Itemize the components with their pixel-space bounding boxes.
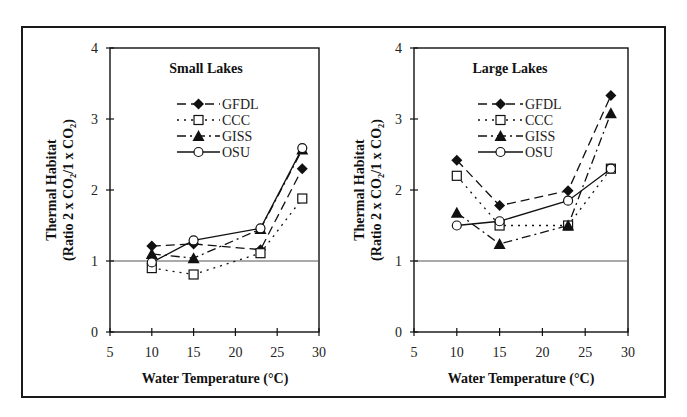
series-line-gfdl: [152, 169, 302, 250]
x-axis-title: Water Temperature (°C): [448, 371, 595, 387]
triangle-marker: [451, 207, 463, 218]
circle-marker: [189, 236, 198, 245]
y-tick-label: 2: [395, 183, 402, 198]
y-tick-label: 2: [91, 183, 98, 198]
circle-marker: [564, 196, 573, 205]
x-tick-label: 15: [493, 345, 507, 360]
series-line-osu: [457, 169, 611, 226]
y-tick-label: 0: [91, 325, 98, 340]
circle-marker: [495, 217, 504, 226]
legend-label: OSU: [525, 145, 553, 160]
x-tick-label: 25: [578, 345, 592, 360]
triangle-marker: [146, 248, 158, 259]
legend-label: OSU: [222, 145, 250, 160]
x-tick-label: 20: [228, 345, 242, 360]
series-markers-osu: [452, 164, 615, 230]
diamond-marker: [605, 90, 616, 101]
svg-text:(Ratio 2 x CO₂/1 x CO₂): (Ratio 2 x CO₂/1 x CO₂): [369, 119, 385, 261]
y-tick-label: 1: [395, 254, 402, 269]
plot-border: [414, 48, 628, 332]
series-line-ccc: [152, 199, 302, 275]
diamond-marker: [297, 163, 308, 174]
triangle-marker: [605, 107, 617, 118]
legend-label: CCC: [525, 113, 553, 128]
svg-text:Thermal Habitat: Thermal Habitat: [352, 139, 367, 241]
legend-label: GFDL: [222, 97, 259, 112]
circle-marker: [452, 221, 461, 230]
x-tick-label: 10: [450, 345, 464, 360]
y-axis-title: Thermal Habitat (Ratio 2 x CO₂/1 x CO₂): [44, 119, 77, 261]
y-tick-label: 3: [91, 112, 98, 127]
plot-border: [110, 48, 319, 332]
circle-marker: [298, 144, 307, 153]
circle-marker: [147, 258, 156, 267]
square-marker: [194, 116, 203, 125]
x-tick-label: 5: [411, 345, 418, 360]
circle-marker: [194, 148, 203, 157]
plot-area: 0123451015202530: [91, 41, 326, 360]
series-line-giss: [152, 150, 302, 259]
legend-item-ccc: CCC: [177, 113, 250, 128]
legend: GFDLCCCGISSOSU: [478, 97, 562, 160]
small-lakes-chart: Small Lakes Thermal Habitat (Ratio 2 x C…: [44, 41, 326, 387]
square-marker: [189, 270, 198, 279]
svg-text:(Ratio 2 x CO₂/1 x CO₂): (Ratio 2 x CO₂/1 x CO₂): [61, 119, 77, 261]
figure-canvas: Small Lakes Thermal Habitat (Ratio 2 x C…: [0, 0, 687, 417]
legend-label: GISS: [525, 129, 555, 144]
plot-area: 0123451015202530: [395, 41, 635, 360]
square-marker: [496, 116, 505, 125]
large-lakes-chart: Large Lakes Thermal Habitat (Ratio 2 x C…: [352, 41, 635, 387]
legend-item-gfdl: GFDL: [177, 97, 259, 112]
chart-title: Small Lakes: [169, 61, 243, 76]
square-marker: [256, 249, 265, 258]
legend-item-giss: GISS: [177, 129, 252, 144]
legend-item-osu: OSU: [177, 145, 250, 160]
x-tick-label: 30: [312, 345, 326, 360]
y-axis-title: Thermal Habitat (Ratio 2 x CO₂/1 x CO₂): [352, 119, 385, 261]
diamond-marker: [495, 99, 506, 110]
x-tick-label: 25: [270, 345, 284, 360]
circle-marker: [606, 164, 615, 173]
x-tick-label: 15: [187, 345, 201, 360]
y-tick-label: 3: [395, 112, 402, 127]
x-axis-title: Water Temperature (°C): [142, 371, 289, 387]
legend-item-ccc: CCC: [478, 113, 553, 128]
circle-marker: [256, 224, 265, 233]
triangle-marker: [188, 252, 200, 263]
legend: GFDLCCCGISSOSU: [177, 97, 259, 160]
x-tick-label: 20: [535, 345, 549, 360]
series-markers-gfdl: [146, 163, 307, 255]
diamond-marker: [563, 185, 574, 196]
y-tick-label: 0: [395, 325, 402, 340]
legend-label: GFDL: [525, 97, 562, 112]
x-tick-label: 30: [621, 345, 635, 360]
diamond-marker: [193, 99, 204, 110]
x-tick-label: 5: [107, 345, 114, 360]
y-tick-label: 4: [91, 41, 98, 56]
y-tick-label: 1: [91, 254, 98, 269]
square-marker: [452, 171, 461, 180]
square-marker: [298, 194, 307, 203]
x-tick-label: 10: [145, 345, 159, 360]
legend-label: GISS: [222, 129, 252, 144]
series-markers-ccc: [452, 164, 615, 230]
circle-marker: [496, 148, 505, 157]
legend-item-osu: OSU: [478, 145, 553, 160]
legend-label: CCC: [222, 113, 250, 128]
legend-item-giss: GISS: [478, 129, 555, 144]
svg-text:Thermal Habitat: Thermal Habitat: [44, 139, 59, 241]
y-tick-label: 4: [395, 41, 402, 56]
chart-title: Large Lakes: [472, 61, 548, 76]
legend-item-gfdl: GFDL: [478, 97, 562, 112]
series-line-ccc: [457, 169, 611, 226]
